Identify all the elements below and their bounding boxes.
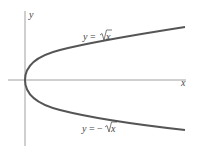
x-axis-label: x bbox=[180, 77, 186, 88]
parabola-figure: y x y = x y = − x bbox=[0, 0, 197, 155]
chart-svg: y x y = x y = − x bbox=[0, 0, 197, 155]
svg-text:y = −: y = − bbox=[81, 123, 103, 134]
curve-neg-sqrt-x bbox=[25, 80, 185, 130]
y-axis-label: y bbox=[28, 9, 34, 20]
svg-text:x: x bbox=[110, 123, 116, 134]
svg-text:y =: y = bbox=[82, 31, 96, 42]
label-lower-equation: y = − x bbox=[81, 122, 117, 134]
svg-text:x: x bbox=[105, 31, 111, 42]
label-upper-equation: y = x bbox=[82, 30, 112, 42]
